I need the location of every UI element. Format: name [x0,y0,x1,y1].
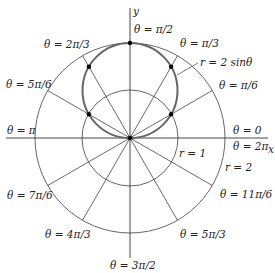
ray-4pi3 [83,138,131,220]
label-theta-2pi: θ = 2π [233,140,269,152]
point-pi3 [169,65,173,69]
ray-5pi3 [130,138,178,220]
y-axis-label: y [132,5,140,17]
label-theta-pi3: θ = π/3 [180,37,219,49]
label-theta-5pi6: θ = 5π/6 [6,78,52,90]
point-5pi6 [87,112,91,116]
point-origin [128,136,132,140]
label-theta-pi: θ = π [7,124,37,136]
point-pi2 [128,41,132,45]
label-theta-0: θ = 0 [233,124,262,136]
label-theta-pi6: θ = π/6 [219,79,258,91]
label-curve: r = 2 sinθ [200,56,253,68]
label-theta-7pi6: θ = 7π/6 [7,189,53,201]
point-pi6 [169,112,173,116]
label-r1: r = 1 [179,147,206,159]
x-axis-label: x [268,143,274,155]
label-theta-pi2: θ = π/2 [134,23,173,35]
label-theta-3pi2: θ = 3π/2 [110,259,156,271]
polar-diagram: y x θ = π/2 θ = π/3 r = 2 sinθ θ = π/6 θ… [0,0,275,273]
label-theta-2pi3: θ = 2π/3 [44,38,90,50]
polar-graph-svg: y x θ = π/2 θ = π/3 r = 2 sinθ θ = π/6 θ… [0,0,275,273]
label-r2: r = 2 [225,161,252,173]
ray-7pi6 [48,138,130,186]
ray-11pi6 [130,138,212,186]
point-2pi3 [87,65,91,69]
label-theta-5pi3: θ = 5π/3 [180,228,226,240]
label-theta-4pi3: θ = 4π/3 [45,228,91,240]
label-theta-11pi6: θ = 11π/6 [220,188,273,200]
